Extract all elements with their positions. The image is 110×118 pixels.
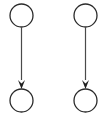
node-left-bottom[interactable] bbox=[10, 89, 33, 112]
node-right-bottom[interactable] bbox=[74, 89, 97, 112]
arrowhead-left-icon bbox=[18, 80, 25, 89]
diagram-svg bbox=[0, 0, 110, 118]
node-group-right bbox=[74, 4, 97, 112]
diagram-canvas bbox=[0, 0, 110, 118]
node-group-left bbox=[10, 4, 33, 112]
arrowhead-right-icon bbox=[82, 80, 89, 89]
node-left-top[interactable] bbox=[10, 4, 33, 27]
node-right-top[interactable] bbox=[74, 4, 97, 27]
